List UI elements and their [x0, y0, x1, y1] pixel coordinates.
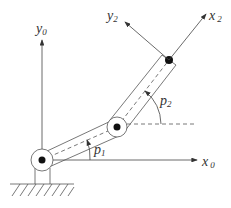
- x2-label: x2: [208, 8, 222, 24]
- p1-label: p1: [93, 142, 106, 158]
- y0-label: y0: [34, 21, 47, 37]
- p2-label: p2: [159, 93, 172, 109]
- ground: [10, 184, 74, 196]
- elbow-joint: [114, 124, 121, 131]
- base-joint: [39, 157, 46, 164]
- x0-label: x0: [201, 154, 215, 170]
- robot-arm-diagram: y0 x0 y2 x2 p1 p2: [0, 0, 231, 208]
- x2-axis: [169, 14, 206, 60]
- p2-angle-arc: [145, 91, 161, 124]
- y2-label: y2: [105, 8, 118, 24]
- y2-axis: [125, 22, 169, 60]
